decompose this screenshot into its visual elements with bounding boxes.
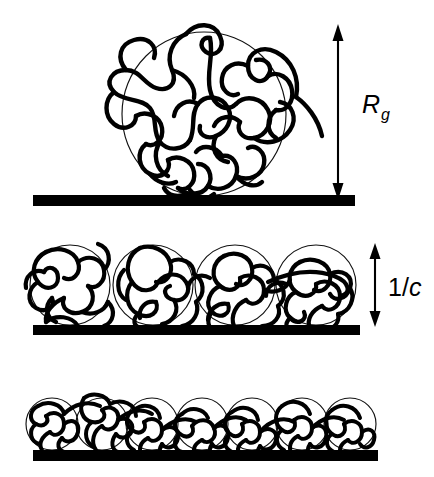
polymer-adsorption-diagram: R g: [0, 0, 434, 477]
inverse-c-label-prefix: 1/: [388, 273, 409, 301]
substrate-bar-overlap: [33, 325, 360, 335]
substrate-bar-dilute: [33, 195, 355, 206]
rg-label-subscript: g: [381, 106, 390, 123]
inverse-c-label-italic: c: [409, 273, 422, 301]
substrate-bar-semidilute: [33, 450, 378, 461]
rg-label-base: R: [362, 90, 380, 118]
